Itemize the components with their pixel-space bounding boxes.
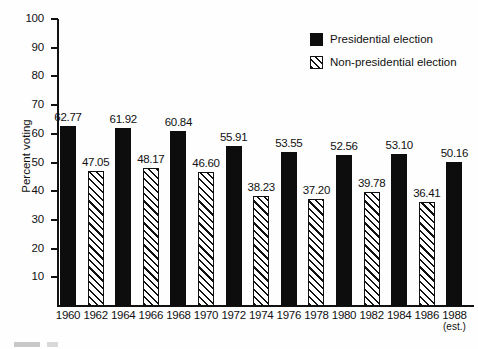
y-axis-tick: [51, 276, 58, 278]
bar-1966: [143, 168, 159, 306]
y-axis-tick-label: 20: [18, 243, 44, 255]
legend-label-non-presidential: Non-presidential election: [330, 56, 457, 68]
y-axis-tick-label: 10: [18, 271, 44, 283]
y-axis-tick: [51, 190, 58, 192]
bar-1984: [391, 154, 407, 306]
bar-value-label-1988: 50.16: [435, 147, 473, 159]
y-axis-tick-label: 40: [18, 185, 44, 197]
bar-1962: [88, 171, 104, 306]
bar-1960: [60, 126, 76, 306]
x-axis-tick-sublabel-1988: (est.): [435, 321, 473, 332]
y-axis-tick: [51, 47, 58, 49]
y-axis-tick-label: 90: [18, 42, 44, 54]
y-axis-tick: [51, 75, 58, 77]
chart-legend: Presidential election Non-presidential e…: [310, 29, 457, 75]
bar-value-label-1970: 46.60: [187, 157, 225, 169]
bar-value-label-1972: 55.91: [215, 131, 253, 143]
legend-item-presidential: Presidential election: [310, 29, 457, 49]
bar-1964: [115, 128, 131, 306]
y-axis-tick: [51, 18, 58, 20]
bar-value-label-1966: 48.17: [132, 153, 170, 165]
y-axis-tick: [51, 133, 58, 135]
bar-value-label-1982: 39.78: [353, 177, 391, 189]
legend-swatch-presidential-icon: [310, 33, 323, 46]
legend-swatch-non-presidential-icon: [310, 56, 323, 69]
bar-value-label-1974: 38.23: [242, 181, 280, 193]
bar-1982: [364, 192, 380, 306]
bar-value-label-1978: 37.20: [297, 184, 335, 196]
bar-1974: [253, 196, 269, 306]
bar-1972: [226, 146, 242, 306]
bar-value-label-1980: 52.56: [325, 140, 363, 152]
y-axis-tick: [51, 104, 58, 106]
bar-value-label-1968: 60.84: [159, 116, 197, 128]
bar-1970: [198, 172, 214, 306]
bar-1980: [336, 155, 352, 306]
bar-1978: [308, 199, 324, 306]
legend-label-presidential: Presidential election: [330, 33, 433, 45]
bar-value-label-1962: 47.05: [77, 156, 115, 168]
y-axis-tick-label: 80: [18, 70, 44, 82]
y-axis-tick-label: 30: [18, 214, 44, 226]
bar-value-label-1964: 61.92: [104, 113, 142, 125]
x-axis-tick-label-1988: 1988: [435, 309, 473, 321]
y-axis-tick-label: 100: [18, 13, 44, 25]
voter-turnout-bar-chart: Percent voting 100908070605040302010 62.…: [0, 0, 478, 349]
bar-value-label-1960: 62.77: [49, 111, 87, 123]
y-axis-tick-label: 50: [18, 157, 44, 169]
bar-value-label-1984: 53.10: [380, 139, 418, 151]
y-axis-tick: [51, 219, 58, 221]
bar-1976: [281, 152, 297, 306]
legend-item-non-presidential: Non-presidential election: [310, 52, 457, 72]
bar-1968: [170, 131, 186, 306]
y-axis-tick-label: 70: [18, 99, 44, 111]
y-axis-tick: [51, 162, 58, 164]
y-axis-tick: [51, 248, 58, 250]
bar-1986: [419, 202, 435, 306]
caption-fragment: [14, 342, 254, 347]
bar-value-label-1986: 36.41: [408, 187, 446, 199]
bar-1988: [446, 162, 462, 306]
bar-value-label-1976: 53.55: [270, 137, 308, 149]
y-axis-tick-label: 60: [18, 128, 44, 140]
